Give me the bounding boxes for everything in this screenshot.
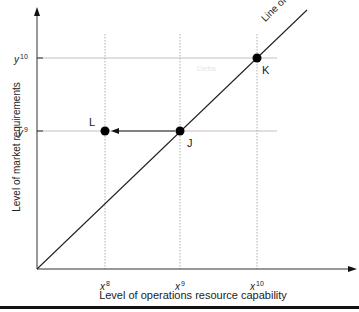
tick-marks	[37, 58, 43, 131]
axes	[37, 14, 350, 269]
y-tick-sup: 9	[24, 126, 28, 133]
arrowhead-icon	[111, 128, 119, 134]
y-axis-arrowhead-icon	[34, 7, 40, 16]
point-label-k: K	[262, 64, 269, 76]
point-label-j: J	[187, 137, 193, 149]
y-tick-base: y	[14, 54, 19, 65]
x-axis-label: Level of operations resource capability	[88, 289, 298, 301]
y-axis-label: Level of market requirements	[11, 77, 23, 217]
horizontal-gridlines	[37, 58, 277, 131]
y-tick-y10: y10	[14, 51, 28, 66]
point-k	[253, 54, 262, 63]
line-of-fit	[37, 10, 307, 269]
point-l	[101, 127, 110, 136]
line-of-fit-diagram: y10 y9 x8 x9 x10 L J K Delta Line of fit…	[0, 0, 359, 312]
gridlines	[105, 34, 257, 269]
x-tick-sup: 8	[106, 280, 110, 287]
point-j	[176, 127, 185, 136]
x-axis-arrowhead-icon	[348, 266, 357, 272]
faint-text: Delta	[197, 64, 216, 73]
y-tick-sup: 10	[20, 53, 28, 60]
diagram-canvas	[0, 0, 359, 312]
bottom-rule	[0, 306, 359, 309]
point-label-l: L	[89, 116, 95, 128]
x-tick-sup: 10	[256, 280, 264, 287]
x-tick-sup: 9	[181, 280, 185, 287]
